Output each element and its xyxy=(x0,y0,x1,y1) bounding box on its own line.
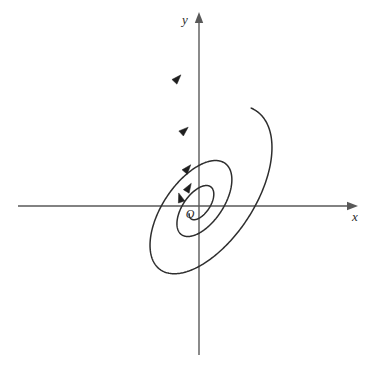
x-axis-label: x xyxy=(351,209,358,224)
origin-label: O xyxy=(186,207,195,221)
flow-direction-arrow-1 xyxy=(172,75,181,84)
phase-portrait-canvas: x y O xyxy=(0,0,376,375)
flow-direction-arrows xyxy=(172,75,191,203)
flow-direction-arrow-4 xyxy=(183,183,191,193)
axes-group xyxy=(18,12,358,355)
phase-portrait-figure: x y O xyxy=(0,0,376,375)
flow-direction-arrow-3 xyxy=(182,165,191,174)
y-axis-arrowhead xyxy=(195,12,203,23)
spiral-trajectory-curve xyxy=(150,108,272,274)
y-axis-label: y xyxy=(180,12,188,27)
flow-direction-arrow-2 xyxy=(179,127,188,136)
trajectory-group xyxy=(150,108,272,274)
